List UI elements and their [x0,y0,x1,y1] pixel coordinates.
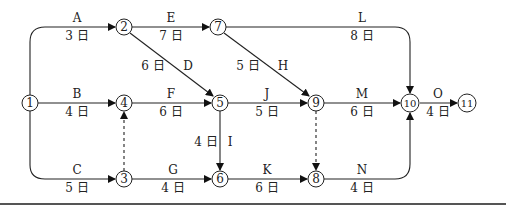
node-4-label: 4 [120,96,128,110]
bottom-rule [0,203,506,205]
node-3-label: 3 [120,172,128,186]
activity-B-duration: 4 日 [65,105,88,119]
node-7-label: 7 [214,20,222,34]
activity-C-name: C [72,163,81,177]
activity-G-name: G [168,163,178,177]
node-10-label: 10 [404,98,417,109]
activity-L-name: L [358,11,366,25]
activity-H-duration: 5 日 [236,59,259,73]
activity-A-name: A [72,11,82,25]
activity-I-duration: 4 日 [194,135,217,149]
node-11-label: 11 [461,98,474,109]
activity-F-duration: 6 日 [159,105,182,119]
activity-L-duration: 8 日 [350,29,373,43]
node-1-label: 1 [26,96,34,110]
activity-K-duration: 6 日 [255,181,278,195]
activity-C-duration: 5 日 [65,181,88,195]
activity-N-duration: 4 日 [350,181,373,195]
activity-F-name: F [167,87,175,101]
activity-I-name: I [228,135,233,149]
activity-J-name: J [263,87,270,101]
activity-E-duration: 7 日 [159,29,182,43]
activity-K-name: K [263,163,273,177]
activity-M-duration: 6 日 [350,105,373,119]
activity-G-duration: 4 日 [161,181,184,195]
node-8-label: 8 [312,172,320,186]
activity-N-name: N [357,163,368,177]
activity-B-name: B [73,87,82,101]
activity-E-name: E [167,11,176,25]
activity-A-duration: 3 日 [65,29,88,43]
activity-H-name: H [278,59,288,73]
node-6-label: 6 [216,172,224,186]
activity-D-name: D [183,59,193,73]
node-5-label: 5 [216,96,224,110]
network-diagram: 1 2 3 4 5 6 7 8 9 10 11 A 3 日 B 4 日 C 5 … [0,0,506,208]
activity-M-name: M [356,87,368,101]
activity-O-duration: 4 日 [426,105,449,119]
node-2-label: 2 [120,20,128,34]
activity-J-duration: 5 日 [255,105,278,119]
activity-O-name: O [433,87,443,101]
node-9-label: 9 [312,96,320,110]
activity-D-duration: 6 日 [141,59,164,73]
